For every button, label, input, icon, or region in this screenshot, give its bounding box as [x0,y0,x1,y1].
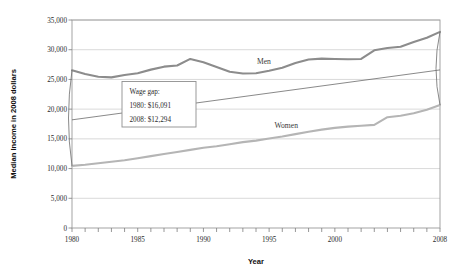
x-tick-label: 1985 [131,236,146,244]
chart-background [0,0,464,273]
x-axis-title: Year [248,257,264,266]
x-tick-label: 2008 [433,236,448,244]
y-axis-title: Median Income in 2008 dollars [9,69,18,179]
x-tick-label: 1995 [262,236,277,244]
annotation-line-2008: 2008: $12,294 [130,116,172,124]
y-tick-label: 25,000 [47,76,67,84]
series-label-men: Men [257,57,271,66]
y-tick-label: 15,000 [47,135,67,143]
y-tick-label: 5,000 [51,195,68,203]
x-tick-label: 1980 [65,236,80,244]
y-tick-label: 20,000 [47,106,67,114]
y-tick-label: 0 [63,225,67,233]
x-tick-label: 2000 [328,236,343,244]
x-tick-label: 1990 [196,236,211,244]
annotation-title: Wage gap: [130,88,160,96]
income-gap-line-chart: 05,00010,00015,00020,00025,00030,00035,0… [0,0,464,273]
series-label-women: Women [275,121,299,130]
wage-gap-annotation: Wage gap: 1980: $16,091 2008: $12,294 [122,82,196,128]
chart-container: 05,00010,00015,00020,00025,00030,00035,0… [0,0,464,273]
y-tick-label: 35,000 [47,17,67,25]
annotation-line-1980: 1980: $16,091 [130,102,172,110]
y-tick-label: 10,000 [47,165,67,173]
y-tick-label: 30,000 [47,46,67,54]
